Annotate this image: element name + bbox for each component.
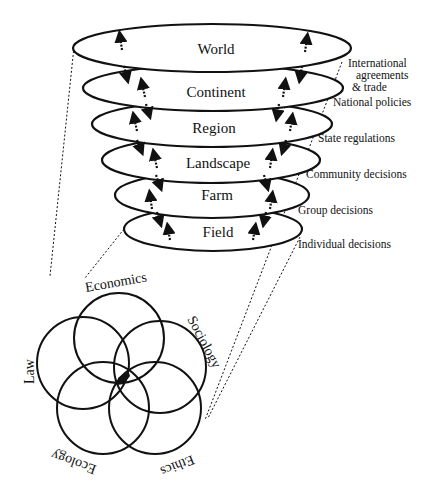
level-label-continent: Continent — [186, 84, 246, 100]
hierarchy-diagram: World Continent Region Landscape Farm Fi… — [0, 0, 433, 496]
level-stack — [73, 24, 351, 251]
label-sociology: Sociology — [184, 313, 224, 370]
side-label-world-1: International — [348, 57, 407, 69]
level-label-landscape: Landscape — [186, 155, 250, 171]
side-label-field: Individual decisions — [298, 238, 391, 250]
side-label-continent: National policies — [333, 96, 412, 109]
circle-economics — [74, 293, 164, 383]
level-label-field: Field — [203, 224, 234, 240]
label-law: Law — [22, 358, 37, 384]
label-ethics: Ethics — [158, 452, 196, 479]
side-label-world-3: & trade — [352, 81, 387, 93]
discipline-venn: Economics Sociology Law Ecology Ethics — [22, 269, 224, 479]
label-economics: Economics — [84, 269, 148, 295]
side-label-landscape: Community decisions — [306, 168, 407, 181]
side-label-region: State regulations — [318, 132, 395, 145]
side-label-farm: Group decisions — [298, 204, 374, 217]
level-label-farm: Farm — [201, 187, 233, 203]
level-label-world: World — [197, 41, 235, 57]
level-label-region: Region — [192, 120, 236, 136]
